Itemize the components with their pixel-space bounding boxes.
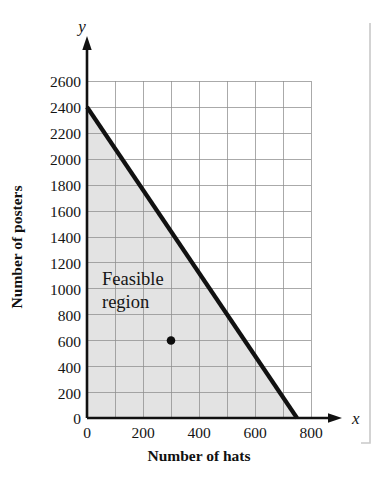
- y-tick-label-0: 0: [73, 410, 81, 427]
- x-axis-title: Number of hats: [147, 447, 250, 464]
- y-axis-variable-label: y: [76, 17, 86, 36]
- x-tick-label-200: 200: [131, 424, 155, 441]
- y-tick-label-1400: 1400: [50, 229, 81, 246]
- y-tick-label-1600: 1600: [50, 203, 81, 220]
- y-tick-label-1200: 1200: [50, 255, 81, 272]
- y-tick-label-2400: 2400: [50, 99, 81, 116]
- feasible-region-chart: y x 2600 2400 2200 2000 1800 1600 1400 1…: [0, 0, 391, 484]
- x-axis-variable-label: x: [351, 409, 360, 428]
- y-tick-label-400: 400: [58, 359, 82, 376]
- x-tick-label-400: 400: [187, 424, 211, 441]
- y-tick-label-600: 600: [58, 333, 82, 350]
- x-tick-label-800: 800: [299, 424, 323, 441]
- feasible-region-label-line-2: region: [102, 292, 149, 312]
- y-tick-label-2600: 2600: [50, 73, 81, 90]
- x-tick-label-0: 0: [83, 424, 91, 441]
- y-tick-label-2000: 2000: [50, 151, 81, 168]
- y-axis-title: Number of posters: [8, 186, 25, 309]
- y-tick-label-1000: 1000: [50, 281, 81, 298]
- x-tick-label-600: 600: [243, 424, 267, 441]
- y-tick-label-2200: 2200: [50, 125, 81, 142]
- y-tick-label-1800: 1800: [50, 177, 81, 194]
- feasible-region-label-line-1: Feasible: [102, 269, 164, 289]
- y-tick-label-200: 200: [58, 385, 82, 402]
- sample-point-marker: [167, 336, 176, 345]
- y-tick-label-800: 800: [58, 307, 82, 324]
